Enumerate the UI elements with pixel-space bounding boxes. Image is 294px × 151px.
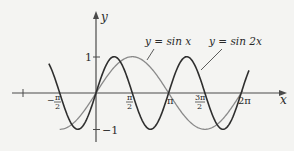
x-tick-label-three-half-pi: 3π 2 bbox=[195, 93, 205, 111]
y-tick-label-neg-1: −1 bbox=[102, 124, 118, 137]
sin-x-leader-line bbox=[147, 49, 154, 60]
sine-chart: y x 1 −1 − π 2 π 2 π 3π 2 2π y = sin x y… bbox=[0, 0, 294, 151]
x-axis-label: x bbox=[280, 93, 287, 107]
x-tick-label-two-pi: 2π bbox=[238, 95, 251, 106]
sin-2x-leader-line bbox=[201, 49, 222, 70]
sin-x-annotation: y = sin x bbox=[144, 35, 191, 47]
sin-2x-annotation: y = sin 2x bbox=[208, 35, 262, 47]
y-tick-label-1: 1 bbox=[85, 51, 92, 64]
y-axis-label: y bbox=[100, 10, 108, 24]
x-tick-label-pi: π bbox=[167, 95, 174, 106]
x-tick-label-half-pi: π 2 bbox=[126, 93, 133, 111]
y-axis-arrow-icon bbox=[93, 11, 99, 19]
svg-text:π: π bbox=[55, 93, 60, 102]
svg-text:2: 2 bbox=[55, 102, 60, 111]
svg-text:π: π bbox=[127, 93, 132, 102]
svg-text:2: 2 bbox=[197, 102, 202, 111]
svg-text:2: 2 bbox=[127, 102, 132, 111]
svg-text:3π: 3π bbox=[195, 93, 205, 102]
x-tick-label-neg-half-pi: − π 2 bbox=[47, 93, 61, 111]
svg-text:−: − bbox=[47, 95, 55, 105]
